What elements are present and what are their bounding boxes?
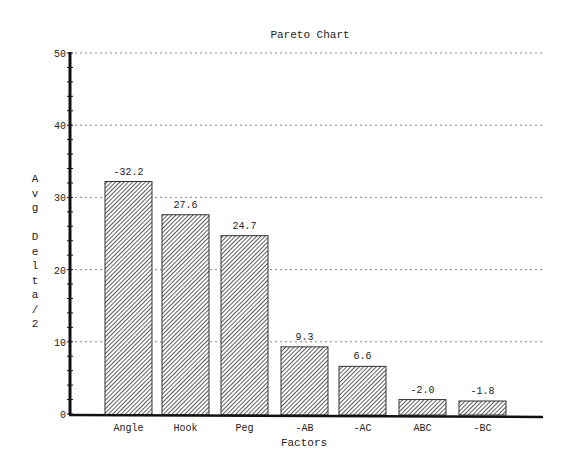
x-category-label: -BC [473, 423, 491, 434]
y-tick-label: 30 [54, 193, 66, 204]
bar-peg [221, 236, 268, 415]
bar-ac [339, 366, 386, 415]
y-tick-label: 50 [54, 49, 66, 60]
bar-value-label: 27.6 [173, 200, 197, 211]
chart-title: Pareto Chart [270, 29, 349, 41]
x-axis-title: Factors [281, 437, 327, 449]
y-axis-title-char: v [32, 188, 39, 200]
x-category-label: Angle [113, 423, 143, 434]
y-tick-label: 20 [54, 266, 66, 277]
bar-value-label: 6.6 [353, 351, 371, 362]
bar-value-label: -1.8 [470, 386, 494, 397]
y-axis-title-char: l [32, 260, 39, 272]
y-tick-label: 40 [54, 121, 66, 132]
y-axis-title-char: A [32, 173, 39, 185]
bar-abc [399, 400, 446, 415]
y-axis-title-char: / [32, 304, 39, 316]
bar-value-label: 9.3 [295, 332, 313, 343]
bar-value-label: 24.7 [232, 221, 256, 232]
bar-bc [459, 401, 506, 415]
x-category-label: Peg [235, 423, 253, 434]
y-axis-title-char: 2 [32, 318, 39, 330]
y-axis-tick-labels: 01020304050 [54, 49, 66, 421]
y-axis-title: AvgDelta/2 [32, 173, 39, 330]
y-axis-title-char: e [32, 246, 39, 258]
y-axis-title-char: D [32, 231, 39, 243]
pareto-chart: Pareto Chart 01020304050 AvgDelta/2 -32.… [0, 0, 573, 469]
x-axis-category-labels: AngleHookPeg-AB-ACABC-BC [113, 423, 491, 434]
y-axis-title-char: t [32, 275, 39, 287]
bar-value-label: -2.0 [410, 385, 434, 396]
bars [105, 182, 506, 415]
x-category-label: Hook [173, 423, 197, 434]
x-category-label: -AC [353, 423, 371, 434]
y-axis-title-char: g [32, 202, 39, 214]
bar-hook [162, 215, 209, 415]
bar-ab [281, 347, 328, 415]
y-tick-label: 0 [60, 410, 66, 421]
y-axis-title-char: a [32, 289, 39, 301]
bar-value-label: -32.2 [113, 167, 143, 178]
x-category-label: -AB [295, 423, 313, 434]
bar-angle [105, 182, 152, 415]
x-category-label: ABC [413, 423, 431, 434]
y-tick-label: 10 [54, 338, 66, 349]
